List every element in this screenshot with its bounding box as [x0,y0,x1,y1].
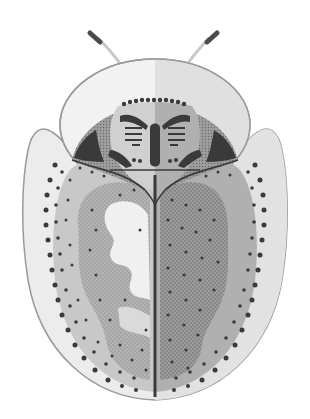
beetle-drawing [0,0,310,419]
beetle-illustration [0,0,310,419]
